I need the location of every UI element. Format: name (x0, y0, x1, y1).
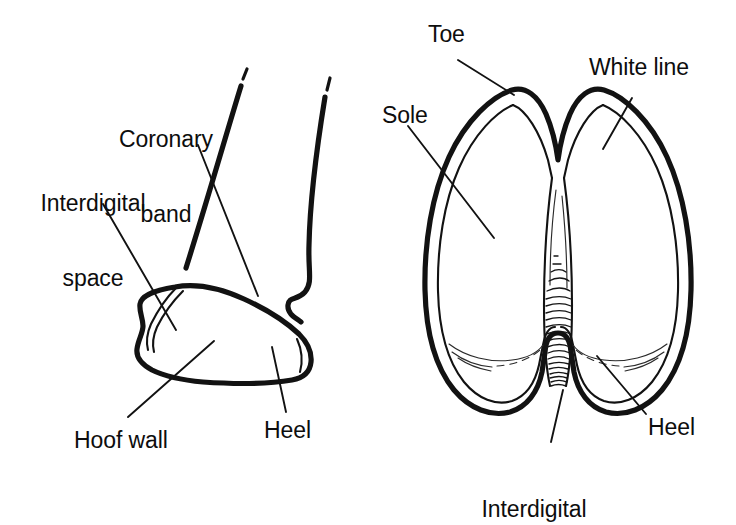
label-interdigital-space-left: Interdigital space (21, 141, 165, 341)
leader-toe (458, 60, 514, 95)
label-interdigital-space-left-line2: space (21, 266, 165, 291)
pastern-rear-line (288, 97, 325, 322)
label-toe: Toe (428, 22, 465, 47)
hoof-anatomy-figure: Coronary band Interdigital space Hoof wa… (0, 0, 736, 525)
label-heel-right: Heel (648, 415, 695, 440)
pastern-rear-edge-tip (327, 78, 330, 90)
label-interdigital-space-left-line1: Interdigital (21, 191, 165, 216)
pastern-front-edge (243, 69, 247, 79)
claws-outer-wall (425, 89, 691, 413)
label-hoof-wall: Hoof wall (74, 428, 168, 453)
label-white-line: White line (589, 55, 689, 80)
label-heel-left: Heel (264, 418, 311, 443)
label-interdigital-space-right: Interdigital space (462, 447, 606, 525)
label-sole: Sole (382, 103, 428, 128)
solar-view-group (408, 60, 691, 442)
label-interdigital-space-right-line1: Interdigital (462, 497, 606, 522)
leader-interdigital-space-right (551, 390, 563, 442)
